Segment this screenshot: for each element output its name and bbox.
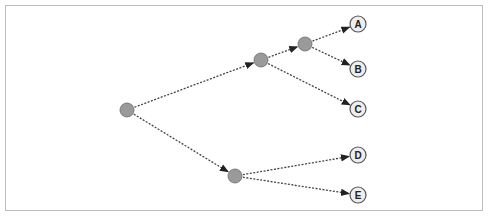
tree-diagram: ABCDE <box>0 0 488 220</box>
node-label: B <box>354 64 361 75</box>
leaf-node-C: C <box>350 101 366 117</box>
edge-n2-A <box>312 27 349 41</box>
edge-n1-n2 <box>269 47 298 58</box>
node-label: A <box>354 19 361 30</box>
edge-n1-C <box>268 64 350 105</box>
node-circle <box>254 53 268 67</box>
leaf-node-E: E <box>350 187 366 203</box>
edge-root-n3 <box>134 114 228 172</box>
node-label: E <box>355 190 362 201</box>
node-circle <box>120 103 134 117</box>
inner-node-root <box>120 103 134 117</box>
inner-node-n3 <box>228 169 242 183</box>
node-circle <box>228 169 242 183</box>
node-label: D <box>354 150 361 161</box>
node-circle <box>298 37 312 51</box>
edge-n3-E <box>243 177 349 193</box>
edge-n2-B <box>312 47 350 65</box>
node-label: C <box>354 104 361 115</box>
edge-n3-D <box>243 157 349 175</box>
leaf-node-A: A <box>350 16 366 32</box>
inner-node-n2 <box>298 37 312 51</box>
leaf-node-D: D <box>350 147 366 163</box>
inner-node-n1 <box>254 53 268 67</box>
edges-group <box>134 27 350 193</box>
edge-root-n1 <box>134 63 253 107</box>
leaf-node-B: B <box>350 61 366 77</box>
